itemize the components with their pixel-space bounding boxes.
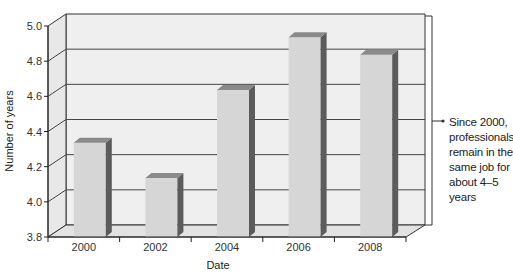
bar-2000 [74,138,112,237]
bar-2008 [360,50,398,237]
x-axis-ticks: 20002002200420062008 [48,237,406,253]
annotation-line: remain in the [449,145,513,160]
bracket-line [425,16,432,225]
annotation-line: professionals [449,130,513,145]
bar-front-face [289,37,321,237]
annotation-line: about 4–5 [449,175,513,190]
y-tick-label: 3.8 [27,231,42,243]
y-tick-label: 4.8 [27,55,42,67]
leader-dot [441,119,444,122]
bar-front-face [360,55,392,237]
y-tick-label: 5.0 [27,20,42,32]
bar-2002 [145,173,183,237]
y-axis-ticks: 3.84.04.24.44.64.85.0 [27,20,48,243]
bar-front-face [217,90,249,237]
x-tick-label: 2002 [143,241,167,253]
bar-top-face [145,173,183,178]
bar-side-face [106,138,112,237]
bar-front-face [145,178,177,237]
bar-top-face [289,32,327,37]
bar-top-face [360,50,398,55]
annotation-text: Since 2000,professionalsremain in thesam… [449,115,513,205]
y-tick-label: 4.6 [27,90,42,102]
bar-2004 [217,85,255,237]
bar-top-face [217,85,255,90]
bar-side-face [249,85,255,237]
x-tick-label: 2008 [358,241,382,253]
x-tick-label: 2006 [286,241,310,253]
y-axis-title: Number of years [3,90,15,172]
bar-side-face [392,50,398,237]
annotation-line: years [449,190,513,205]
x-axis-title: Date [206,259,229,271]
y-tick-label: 4.2 [27,161,42,173]
y-tick-label: 4.0 [27,196,42,208]
x-tick-label: 2004 [215,241,239,253]
annotation-line: same job for [449,160,513,175]
bar-2006 [289,32,327,237]
bar-side-face [321,32,327,237]
bar-chart-3d: 3.84.04.24.44.64.85.0 200020022004200620… [0,0,513,280]
bar-top-face [74,138,112,143]
y-tick-label: 4.4 [27,126,42,138]
bar-side-face [177,173,183,237]
annotation-line: Since 2000, [449,115,513,130]
x-tick-label: 2000 [72,241,96,253]
bar-front-face [74,143,106,237]
annotation-bracket [425,16,445,225]
